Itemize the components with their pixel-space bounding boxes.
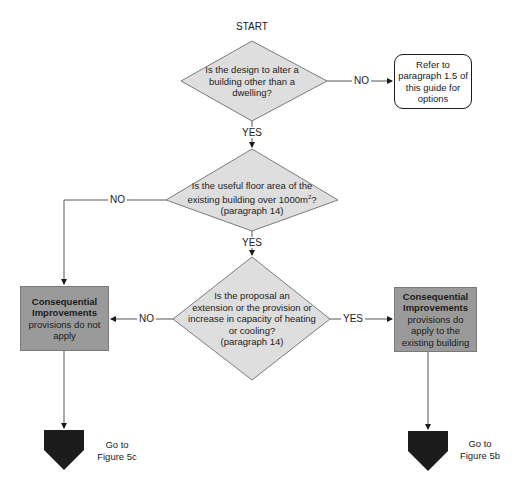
offpage-connector-left xyxy=(44,430,84,470)
goto-line: Figure 5c xyxy=(92,451,142,463)
decision-3-line: extension or the provision or xyxy=(187,302,317,314)
decision-1-no-label: NO xyxy=(352,75,371,86)
outcome-line: provisions do not xyxy=(29,319,101,331)
refer-box: Refer to paragraph 1.5 of this guide for… xyxy=(394,54,472,109)
decision-3-yes-label: YES xyxy=(341,313,365,324)
offpage-connector-right xyxy=(408,431,448,471)
decision-1-text: Is the design to alter a building other … xyxy=(192,64,312,99)
decision-2-line: (paragraph 14) xyxy=(180,205,324,217)
decision-1-yes-label: YES xyxy=(240,127,264,138)
goto-figure-5c-label: Go to Figure 5c xyxy=(92,439,142,462)
decision-3-line: increase in capacity of heating xyxy=(187,313,317,325)
refer-line: paragraph 1.5 of xyxy=(398,70,468,82)
decision-2-no-label: NO xyxy=(108,194,127,205)
decision-3-line: Is the proposal an xyxy=(187,290,317,302)
outcome-line: apply xyxy=(53,330,76,342)
outcome-line: provisions do xyxy=(408,314,464,326)
decision-3-text: Is the proposal an extension or the prov… xyxy=(187,290,317,348)
outcome-apply-box: Consequential Improvements provisions do… xyxy=(394,287,477,352)
decision-3-line: or cooling? xyxy=(187,325,317,337)
outcome-line: apply to the xyxy=(411,325,460,337)
decision-3-line: (paragraph 14) xyxy=(187,336,317,348)
goto-line: Go to xyxy=(92,439,142,451)
outcome-title: Improvements xyxy=(32,307,97,319)
outcome-title: Consequential xyxy=(403,291,468,303)
decision-1-line: dwelling? xyxy=(192,87,312,99)
goto-line: Go to xyxy=(455,438,505,450)
decision-2-yes-label: YES xyxy=(240,237,264,248)
outcome-line: existing building xyxy=(402,337,470,349)
outcome-not-apply-box: Consequential Improvements provisions do… xyxy=(20,286,109,351)
refer-line: options xyxy=(398,93,468,105)
refer-line: Refer to xyxy=(398,59,468,71)
decision-1-line: Is the design to alter a xyxy=(192,64,312,76)
goto-line: Figure 5b xyxy=(455,450,505,462)
decision-3-no-label: NO xyxy=(137,313,156,324)
decision-2-text: Is the useful floor area of the existing… xyxy=(180,180,324,217)
refer-line: this guide for xyxy=(398,82,468,94)
start-label: START xyxy=(222,21,282,32)
decision-1-line: building other than a xyxy=(192,76,312,88)
decision-2-line: existing building over 1000m2? xyxy=(180,192,324,206)
goto-figure-5b-label: Go to Figure 5b xyxy=(455,438,505,461)
outcome-title: Consequential xyxy=(32,296,97,308)
decision-2-line: Is the useful floor area of the xyxy=(180,180,324,192)
outcome-title: Improvements xyxy=(403,302,468,314)
